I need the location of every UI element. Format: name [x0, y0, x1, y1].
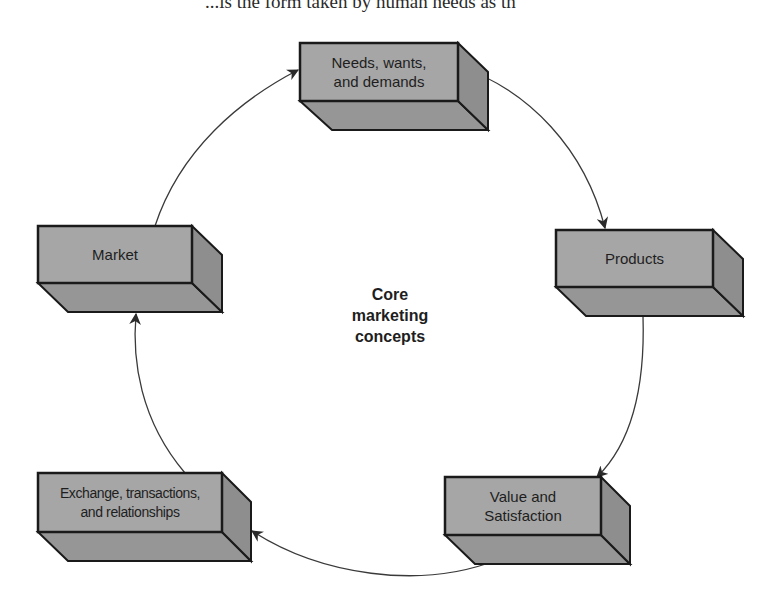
- needs-line-2: and demands: [334, 72, 425, 91]
- exchange-line-2: and relationships: [80, 503, 179, 522]
- arrow-market-to-needs: [155, 70, 298, 226]
- node-label-market: Market: [38, 226, 192, 283]
- market-line-1: Market: [92, 245, 138, 264]
- value-line-2: Satisfaction: [484, 506, 562, 525]
- node-label-needs: Needs, wants, and demands: [300, 43, 458, 101]
- node-label-products: Products: [556, 230, 713, 287]
- arrow-products-to-value: [597, 316, 643, 477]
- value-line-1: Value and: [490, 487, 556, 506]
- products-line-1: Products: [605, 249, 664, 268]
- exchange-line-1: Exchange, transactions,: [60, 484, 200, 503]
- node-label-exchange: Exchange, transactions, and relationship…: [38, 473, 222, 532]
- center-title-line-2: marketing: [330, 305, 450, 326]
- center-title-line-1: Core: [330, 284, 450, 305]
- center-title: Core marketing concepts: [330, 284, 450, 347]
- center-title-line-3: concepts: [330, 326, 450, 347]
- arrow-exchange-to-market: [135, 314, 185, 473]
- needs-line-1: Needs, wants,: [331, 53, 426, 72]
- node-label-value: Value and Satisfaction: [445, 477, 601, 535]
